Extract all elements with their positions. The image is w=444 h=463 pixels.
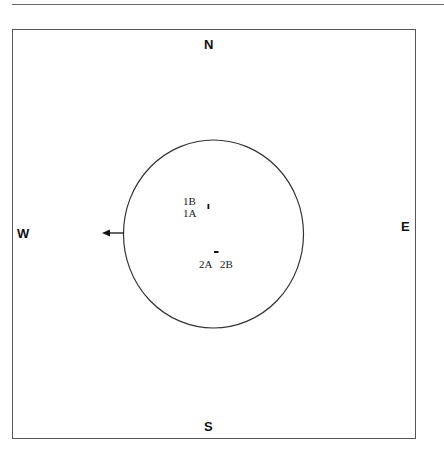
compass-east: E: [401, 219, 410, 234]
compass-south: S: [204, 419, 213, 434]
compass-west: W: [17, 226, 29, 241]
point-label-2a: 2A: [199, 258, 212, 270]
marker-1: [208, 204, 210, 209]
point-label-1a: 1A: [183, 207, 196, 219]
diagram-canvas: [0, 0, 444, 463]
circle-outline: [124, 140, 304, 328]
compass-north: N: [204, 37, 213, 52]
point-label-1b: 1B: [183, 195, 196, 207]
marker-2: [214, 251, 219, 253]
point-label-2b: 2B: [220, 258, 233, 270]
west-arrow-icon: [102, 230, 124, 237]
